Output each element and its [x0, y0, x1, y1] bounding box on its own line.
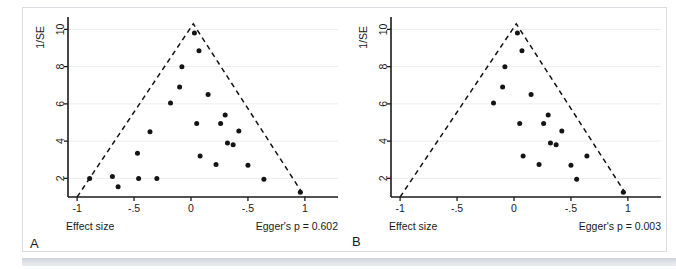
y-tick-label: 8: [54, 64, 66, 70]
data-point: [574, 177, 579, 182]
data-point: [554, 142, 559, 147]
data-point: [500, 85, 505, 90]
y-tick-label: 10: [54, 23, 66, 35]
y-tick-label: 4: [54, 138, 66, 144]
y-tick-label: 4: [377, 138, 389, 144]
data-point: [559, 128, 564, 133]
data-point: [548, 140, 553, 145]
data-point: [491, 100, 496, 105]
y-tick-label: 6: [377, 101, 389, 107]
x-tick-label: -.5: [128, 202, 140, 214]
egger-p-annotation: Egger's p = 0.602: [256, 220, 338, 232]
data-point: [519, 48, 524, 53]
data-point: [517, 121, 522, 126]
data-point: [116, 184, 121, 189]
data-point: [541, 121, 546, 126]
data-point: [154, 176, 159, 181]
data-point: [136, 176, 141, 181]
x-tick-label: -1: [72, 202, 81, 214]
data-point: [236, 128, 241, 133]
data-point: [196, 48, 201, 53]
page-bottom-band: [22, 258, 676, 266]
data-point: [168, 100, 173, 105]
data-point: [298, 190, 303, 195]
funnel-boundary: [77, 24, 305, 197]
data-point: [192, 31, 197, 36]
panel-label-b: B: [352, 234, 361, 249]
data-point: [502, 64, 507, 69]
y-axis-title: 1/SE: [34, 26, 46, 49]
y-tick-label: 2: [377, 175, 389, 181]
funnel-plot-panel-b: 246810-1-.50-.511/SEEffect sizeEgger's p…: [345, 7, 667, 252]
y-tick-label: 2: [54, 175, 66, 181]
x-tick-label: 0: [188, 202, 194, 214]
data-point: [537, 162, 542, 167]
data-point: [515, 31, 520, 36]
x-tick-label: 1: [625, 202, 631, 214]
data-point: [179, 64, 184, 69]
panel-b-canvas: 246810-1-.50-.511/SEEffect sizeEgger's p…: [345, 7, 667, 252]
x-tick-label: 1: [302, 202, 308, 214]
data-point: [568, 163, 573, 168]
x-tick-label: -.5: [565, 202, 577, 214]
y-tick-label: 10: [377, 23, 389, 35]
panel-label-a: A: [30, 236, 39, 251]
figure-page: 246810-1-.50-.511/SEEffect sizeEgger's p…: [0, 0, 676, 269]
data-point: [148, 129, 153, 134]
data-point: [546, 113, 551, 118]
data-point: [87, 176, 92, 181]
data-point: [177, 85, 182, 90]
data-points-group: [87, 31, 303, 195]
data-point: [245, 163, 250, 168]
x-axis-title: Effect size: [66, 220, 114, 232]
funnel-plot-panel-a: 246810-1-.50-.511/SEEffect sizeEgger's p…: [22, 7, 345, 252]
data-point: [198, 154, 203, 159]
data-point: [261, 177, 266, 182]
data-point: [218, 121, 223, 126]
data-point: [194, 121, 199, 126]
egger-p-annotation: Egger's p = 0.003: [579, 220, 661, 232]
data-point: [529, 92, 534, 97]
data-point: [214, 162, 219, 167]
data-point: [223, 113, 228, 118]
x-tick-label: -.5: [451, 202, 463, 214]
data-point: [225, 140, 230, 145]
y-tick-label: 6: [54, 101, 66, 107]
data-point: [584, 154, 589, 159]
funnel-boundary: [400, 24, 628, 197]
data-point: [135, 151, 140, 156]
x-tick-label: -1: [395, 202, 404, 214]
y-tick-label: 8: [377, 64, 389, 70]
x-axis-title: Effect size: [389, 220, 437, 232]
panel-a-canvas: 246810-1-.50-.511/SEEffect sizeEgger's p…: [22, 7, 345, 252]
data-point: [521, 154, 526, 159]
x-tick-label: -.5: [242, 202, 254, 214]
x-tick-label: 0: [511, 202, 517, 214]
data-point: [231, 142, 236, 147]
y-axis-title: 1/SE: [357, 26, 369, 49]
data-point: [110, 174, 115, 179]
data-point: [621, 190, 626, 195]
data-points-group: [491, 31, 626, 195]
data-point: [206, 92, 211, 97]
